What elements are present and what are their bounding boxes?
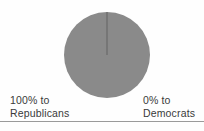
bottom-divider-rule — [0, 121, 204, 122]
pie-chart-graphic — [64, 12, 150, 98]
page-title — [8, 0, 198, 3]
pie-chart-figure: 100% to Republicans 0% to Democrats — [0, 0, 204, 131]
pie-label-democrats-party: Democrats — [143, 107, 195, 120]
pie-svg — [64, 12, 150, 98]
pie-label-republicans-party: Republicans — [10, 107, 69, 120]
pie-label-republicans-percent: 100% to — [10, 94, 69, 107]
pie-label-republicans: 100% to Republicans — [10, 94, 69, 120]
pie-label-democrats: 0% to Democrats — [143, 94, 195, 120]
pie-label-democrats-percent: 0% to — [143, 94, 195, 107]
